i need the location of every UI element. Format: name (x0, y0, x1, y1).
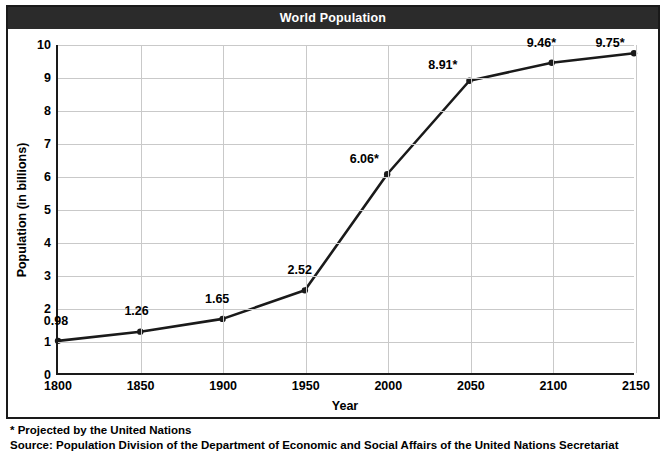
x-tick-label: 1800 (44, 379, 72, 393)
gridline-vertical (471, 45, 472, 373)
chart-page: World Population Population (in billions… (0, 0, 672, 459)
y-tick-label: 5 (44, 203, 51, 217)
y-tick-label: 6 (44, 170, 51, 184)
y-tick-label: 8 (44, 104, 51, 118)
gridline-horizontal (58, 276, 634, 277)
gridline-vertical (306, 45, 307, 373)
series-line (58, 53, 634, 341)
data-point-label: 1.26 (124, 304, 148, 318)
x-tick-label: 1950 (292, 379, 320, 393)
data-point-label: 1.65 (205, 292, 229, 306)
data-point-label: 9.75* (595, 36, 624, 50)
x-tick-label: 2050 (457, 379, 485, 393)
gridline-horizontal (58, 78, 634, 79)
chart-footnotes: * Projected by the United Nations Source… (10, 424, 660, 451)
gridline-vertical (636, 45, 637, 373)
y-tick-label: 1 (44, 335, 51, 349)
data-point-label: 2.52 (288, 263, 312, 277)
data-point-marker (55, 338, 61, 344)
y-tick-label: 7 (44, 137, 51, 151)
data-point-label: 8.91* (428, 58, 457, 72)
chart-title-bar: World Population (8, 7, 658, 29)
source-note: Source: Population Division of the Depar… (10, 439, 660, 451)
x-axis-label: Year (56, 399, 634, 413)
page-title: World Population (280, 11, 386, 25)
x-tick-label: 2150 (622, 379, 650, 393)
gridline-horizontal (58, 177, 634, 178)
gridline-vertical (388, 45, 389, 373)
gridline-horizontal (58, 243, 634, 244)
plot-frame: 0123456789101800185019001950200020502100… (56, 45, 634, 375)
data-point-label: 0.98 (44, 314, 68, 328)
gridline-vertical (553, 45, 554, 373)
y-tick-label: 3 (44, 269, 51, 283)
projection-note: * Projected by the United Nations (10, 424, 660, 436)
x-tick-label: 1850 (127, 379, 155, 393)
x-tick-label: 2100 (540, 379, 568, 393)
x-tick-label: 2000 (374, 379, 402, 393)
chart-panel: World Population Population (in billions… (6, 5, 660, 419)
data-point-label: 9.46* (527, 36, 556, 50)
y-tick-label: 4 (44, 236, 51, 250)
population-line-series (58, 45, 634, 373)
gridline-horizontal (58, 144, 634, 145)
y-tick-label: 10 (37, 38, 51, 52)
gridline-vertical (141, 45, 142, 373)
gridline-horizontal (58, 210, 634, 211)
gridline-horizontal (58, 342, 634, 343)
y-tick-label: 9 (44, 71, 51, 85)
data-point-label: 6.06* (350, 152, 379, 166)
plot-area: 0123456789101800185019001950200020502100… (56, 45, 634, 375)
gridline-horizontal (58, 111, 634, 112)
y-axis-label: Population (in billions) (14, 45, 30, 375)
x-tick-label: 1900 (209, 379, 237, 393)
gridline-vertical (223, 45, 224, 373)
